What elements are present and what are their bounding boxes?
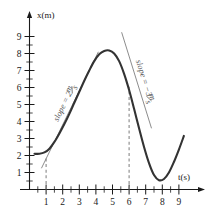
position-time-graph: 123456789 123456789 x(m) t(s) slope = 2 … bbox=[0, 0, 211, 217]
x-axis-arrowhead bbox=[198, 187, 205, 192]
x-tick-label: 5 bbox=[110, 197, 115, 207]
y-axis-label: x(m) bbox=[37, 10, 55, 20]
x-tick-label: 6 bbox=[127, 197, 132, 207]
x-axis-label: t(s) bbox=[178, 172, 190, 182]
y-tick-label: 1 bbox=[17, 168, 22, 178]
y-axis-tick-labels: 123456789 bbox=[17, 32, 22, 178]
axes-group bbox=[20, 11, 205, 192]
slope-annotations: slope = 2 msslope = −3 ms bbox=[49, 58, 159, 124]
x-tick-label: 7 bbox=[143, 197, 148, 207]
y-tick-label: 8 bbox=[17, 49, 22, 59]
tangent-lines bbox=[41, 32, 151, 168]
chart-figure: 123456789 123456789 x(m) t(s) slope = 2 … bbox=[0, 0, 211, 217]
tangent-right-label: slope = −3 bbox=[134, 58, 155, 97]
x-tick-label: 4 bbox=[94, 197, 99, 207]
y-tick-label: 2 bbox=[17, 151, 22, 161]
x-tick-label: 8 bbox=[160, 197, 165, 207]
y-axis-arrowhead bbox=[27, 11, 32, 18]
y-tick-label: 5 bbox=[17, 100, 22, 110]
x-tick-label: 1 bbox=[44, 197, 49, 207]
y-tick-label: 3 bbox=[17, 134, 22, 144]
y-tick-label: 7 bbox=[17, 66, 22, 76]
x-tick-label: 9 bbox=[177, 197, 182, 207]
y-tick-label: 6 bbox=[17, 83, 22, 93]
tangent-right-label-group: slope = −3 ms bbox=[131, 58, 159, 106]
y-tick-label: 4 bbox=[17, 117, 22, 127]
tangent-right-unit-denominator: s bbox=[144, 99, 155, 106]
x-axis-tick-labels: 123456789 bbox=[44, 197, 182, 207]
x-tick-label: 2 bbox=[60, 197, 65, 207]
y-tick-label: 9 bbox=[17, 32, 22, 42]
x-tick-label: 3 bbox=[77, 197, 82, 207]
